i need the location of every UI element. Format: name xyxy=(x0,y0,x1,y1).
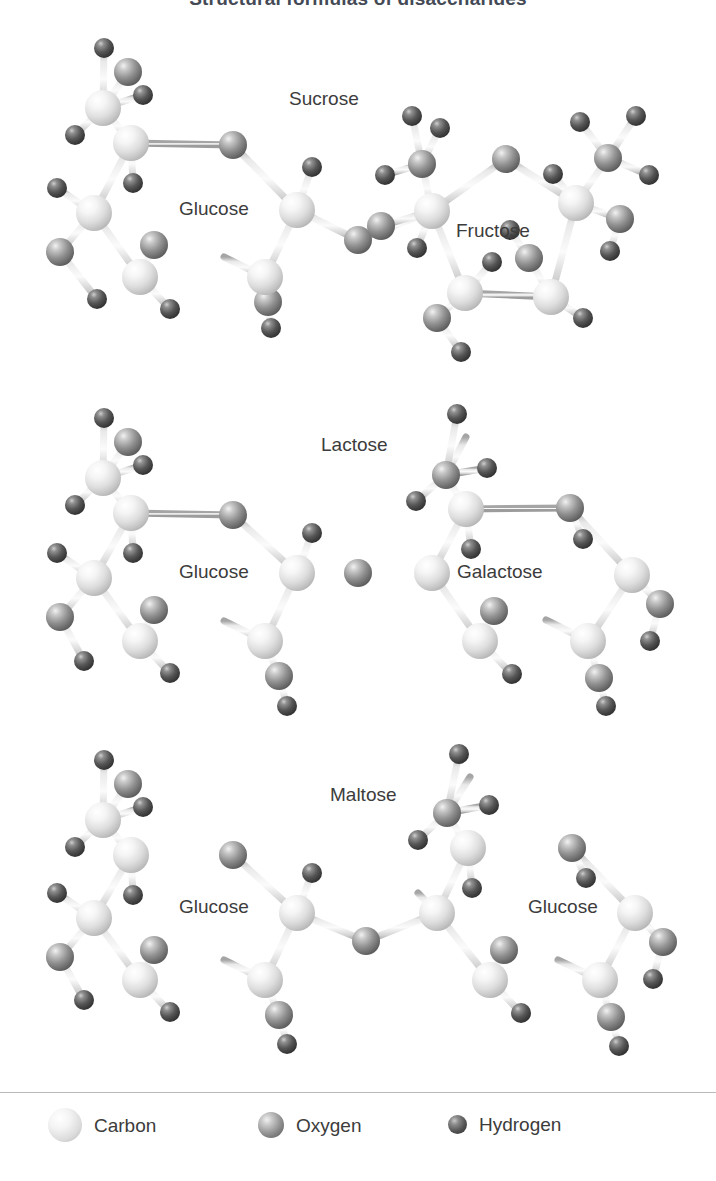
molecule-lactose: Lactose Glucose Galactose xyxy=(46,404,674,716)
legend-label-hydrogen: Hydrogen xyxy=(479,1115,561,1134)
legend-item-oxygen: Oxygen xyxy=(258,1112,361,1138)
molecule-sucrose: Sucrose Glucose Fructose xyxy=(46,38,659,362)
legend-label-carbon: Carbon xyxy=(94,1116,156,1135)
legend-label-oxygen: Oxygen xyxy=(296,1116,361,1135)
hydrogen-sphere-icon xyxy=(448,1115,467,1134)
label-lactose: Lactose xyxy=(321,434,388,455)
oxygen-sphere-icon xyxy=(258,1112,284,1138)
legend-item-hydrogen: Hydrogen xyxy=(448,1115,561,1134)
label-sucrose-glucose: Glucose xyxy=(179,198,249,219)
label-maltose-glucose-left: Glucose xyxy=(179,896,249,917)
diagram-page: Structural formulas of disaccharides xyxy=(0,0,716,1181)
carbon-atoms-sucrose xyxy=(76,90,594,315)
label-maltose: Maltose xyxy=(330,784,397,805)
label-sucrose: Sucrose xyxy=(289,88,359,109)
label-lactose-glucose: Glucose xyxy=(179,561,249,582)
legend-divider xyxy=(0,1092,716,1093)
molecule-maltose: Maltose Glucose Glucose xyxy=(46,744,677,1056)
molecule-diagram: Sucrose Glucose Fructose xyxy=(0,0,716,1092)
label-maltose-glucose-right: Glucose xyxy=(528,896,598,917)
legend-item-carbon: Carbon xyxy=(48,1108,156,1142)
label-sucrose-fructose: Fructose xyxy=(456,220,530,241)
label-lactose-galactose: Galactose xyxy=(457,561,543,582)
carbon-sphere-icon xyxy=(48,1108,82,1142)
legend: Carbon Oxygen Hydrogen xyxy=(0,1102,716,1162)
